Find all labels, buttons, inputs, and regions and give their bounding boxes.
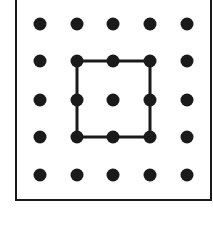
- grid-dot: [71, 169, 84, 182]
- grid-dot: [107, 131, 120, 144]
- grid-dot: [144, 169, 157, 182]
- grid-dot: [107, 94, 120, 107]
- grid-dot: [181, 94, 194, 107]
- grid-dot: [181, 18, 194, 31]
- grid-dot: [71, 94, 84, 107]
- grid-dot: [34, 131, 47, 144]
- grid-dot: [34, 18, 47, 31]
- grid-dot: [107, 55, 120, 68]
- grid-dot: [181, 55, 194, 68]
- grid-dot: [144, 55, 157, 68]
- grid-dot: [34, 55, 47, 68]
- grid-dot: [144, 94, 157, 107]
- grid-dot: [107, 18, 120, 31]
- grid-dot: [71, 131, 84, 144]
- grid-dot: [34, 169, 47, 182]
- grid-dot: [181, 169, 194, 182]
- dot-grid-diagram: [0, 0, 213, 232]
- grid-dot: [34, 94, 47, 107]
- grid-dot: [144, 18, 157, 31]
- grid-dot: [71, 55, 84, 68]
- grid-dot: [144, 131, 157, 144]
- grid-dot: [71, 18, 84, 31]
- grid-dot: [181, 131, 194, 144]
- grid-dot: [107, 169, 120, 182]
